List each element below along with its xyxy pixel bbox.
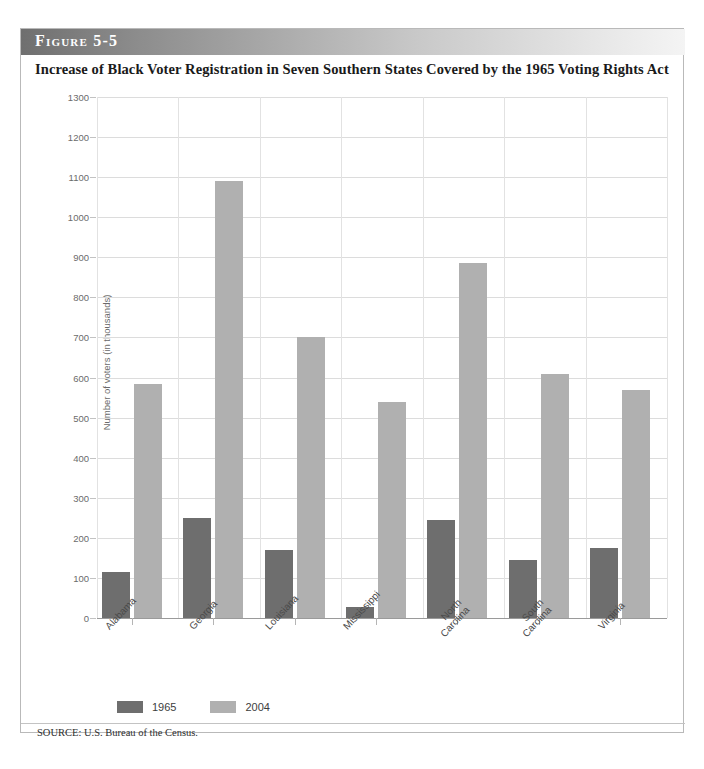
y-gridline	[97, 177, 667, 178]
source-divider	[21, 723, 685, 724]
bar-north-carolina-2004	[459, 263, 487, 618]
source-note: SOURCE: U.S. Bureau of the Census.	[37, 727, 198, 738]
y-tick-mark	[90, 177, 96, 178]
legend-label: 1965	[152, 701, 176, 713]
x-gridline	[504, 97, 505, 618]
plot-area: 0100200300400500600700800900100011001200…	[97, 97, 667, 618]
y-tick-label: 800	[73, 292, 89, 303]
x-tick-mark	[295, 618, 296, 625]
y-tick-mark	[90, 337, 96, 338]
y-gridline	[97, 257, 667, 258]
x-tick-mark	[376, 618, 377, 625]
legend-item-2004: 2004	[210, 701, 269, 713]
x-gridline	[260, 97, 261, 618]
y-tick-label: 400	[73, 452, 89, 463]
y-tick-label: 100	[73, 572, 89, 583]
x-gridline	[586, 97, 587, 618]
y-tick-label: 0	[84, 613, 89, 624]
y-gridline	[97, 217, 667, 218]
y-tick-label: 200	[73, 532, 89, 543]
y-tick-mark	[90, 418, 96, 419]
x-gridline	[341, 97, 342, 618]
bar-virginia-2004	[622, 390, 650, 618]
y-tick-label: 500	[73, 412, 89, 423]
y-tick-mark	[90, 297, 96, 298]
plot-wrapper: Number of voters (in thousands) 01002003…	[97, 97, 667, 646]
y-tick-mark	[90, 217, 96, 218]
y-gridline	[97, 297, 667, 298]
y-tick-label: 1300	[68, 92, 89, 103]
x-gridline	[667, 97, 668, 618]
figure-header-band: Figure 5-5	[21, 29, 685, 55]
y-tick-mark	[90, 578, 96, 579]
y-gridline	[97, 337, 667, 338]
y-tick-mark	[90, 137, 96, 138]
y-tick-mark	[90, 458, 96, 459]
y-tick-label: 600	[73, 372, 89, 383]
bar-louisiana-2004	[297, 337, 325, 618]
legend-swatch-2004	[210, 701, 236, 713]
legend-swatch-1965	[117, 701, 143, 713]
x-tick-mark	[213, 618, 214, 625]
x-gridline	[178, 97, 179, 618]
y-tick-label: 1200	[68, 132, 89, 143]
figure-number-label: Figure 5-5	[35, 32, 118, 50]
y-tick-label: 900	[73, 252, 89, 263]
chart-title: Increase of Black Voter Registration in …	[35, 61, 675, 78]
figure-card: Figure 5-5 Increase of Black Voter Regis…	[20, 28, 684, 733]
y-tick-mark	[90, 257, 96, 258]
bar-alabama-2004	[134, 384, 162, 618]
x-tick-mark	[132, 618, 133, 625]
bar-south-carolina-2004	[541, 374, 569, 618]
legend-label: 2004	[245, 701, 269, 713]
y-tick-mark	[90, 378, 96, 379]
x-axis-baseline	[97, 618, 667, 619]
y-tick-mark	[90, 97, 96, 98]
y-tick-label: 300	[73, 492, 89, 503]
y-tick-mark	[90, 538, 96, 539]
y-gridline	[97, 137, 667, 138]
chart-legend: 19652004	[117, 701, 304, 713]
y-tick-label: 1100	[69, 172, 89, 183]
y-gridline	[97, 97, 667, 98]
bar-georgia-2004	[215, 181, 243, 618]
x-gridline	[97, 97, 98, 618]
bar-mississippi-2004	[378, 402, 406, 618]
y-tick-label: 700	[73, 332, 89, 343]
y-tick-label: 1000	[68, 212, 89, 223]
legend-item-1965: 1965	[117, 701, 176, 713]
y-gridline	[97, 378, 667, 379]
y-tick-mark	[90, 618, 96, 619]
x-tick-mark	[620, 618, 621, 625]
y-tick-mark	[90, 498, 96, 499]
x-gridline	[423, 97, 424, 618]
